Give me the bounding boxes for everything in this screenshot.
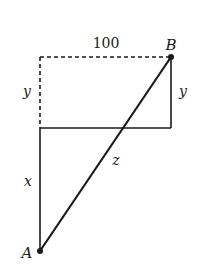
diagonal-z bbox=[40, 57, 171, 251]
label-100: 100 bbox=[93, 35, 120, 51]
label-z: z bbox=[111, 152, 120, 168]
label-b: B bbox=[164, 36, 176, 54]
point-b-dot bbox=[168, 54, 174, 60]
label-y-left: y bbox=[22, 83, 32, 99]
label-x: x bbox=[24, 173, 32, 189]
label-a: A bbox=[20, 244, 33, 262]
geometry-diagram: 100 B y y x z A bbox=[0, 0, 197, 277]
point-a-dot bbox=[37, 248, 43, 254]
label-y-right: y bbox=[178, 83, 188, 99]
